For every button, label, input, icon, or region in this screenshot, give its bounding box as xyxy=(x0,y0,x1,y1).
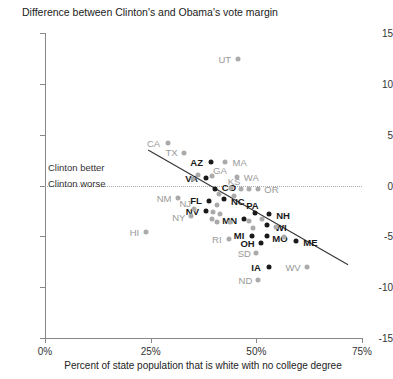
data-point xyxy=(215,202,220,207)
y-tick xyxy=(40,135,45,136)
point-label-fl: FL xyxy=(190,194,202,205)
point-label-pa: PA xyxy=(246,199,259,210)
plot-area xyxy=(0,0,393,379)
data-point xyxy=(190,177,195,182)
y-tick-label: -5 xyxy=(359,231,393,242)
point-label-ut: UT xyxy=(218,54,231,65)
data-point xyxy=(260,217,265,222)
data-point-ia xyxy=(267,264,272,269)
data-point-oh xyxy=(258,241,263,246)
x-tick xyxy=(256,338,257,343)
data-point-co xyxy=(212,186,217,191)
data-point xyxy=(281,235,286,240)
data-point-tx xyxy=(182,150,187,155)
data-point-me xyxy=(294,239,299,244)
data-point-ri xyxy=(226,237,231,242)
data-point-nh xyxy=(267,211,272,216)
y-tick-label: 0 xyxy=(359,180,393,191)
x-tick-label: 75% xyxy=(352,346,372,357)
x-tick-label: 0% xyxy=(38,346,52,357)
data-point-va xyxy=(203,176,208,181)
data-point xyxy=(211,209,216,214)
point-label-sd: SD xyxy=(238,247,251,258)
data-point xyxy=(218,211,223,216)
y-tick-label: -15 xyxy=(359,333,393,344)
data-point xyxy=(247,219,252,224)
x-axis-line xyxy=(45,338,362,339)
point-label-wa: WA xyxy=(244,172,259,183)
x-tick-label: 50% xyxy=(246,346,266,357)
point-label-ga: GA xyxy=(213,165,227,176)
point-label-ca: CA xyxy=(147,137,160,148)
x-tick xyxy=(151,338,152,343)
y-tick-label: 15 xyxy=(359,28,393,39)
data-point-ut xyxy=(235,57,240,62)
x-tick-label: 25% xyxy=(141,346,161,357)
point-label-me: ME xyxy=(303,237,317,248)
point-label-ny: NY xyxy=(172,212,185,223)
data-point-hi xyxy=(144,230,149,235)
y-tick xyxy=(40,33,45,34)
y-tick-label: -10 xyxy=(359,282,393,293)
data-point xyxy=(239,186,244,191)
data-point-mo xyxy=(264,234,269,239)
data-point-nd xyxy=(256,278,261,283)
data-point-mn xyxy=(241,217,246,222)
point-label-ia: IA xyxy=(251,261,261,272)
data-point xyxy=(217,191,222,196)
data-point-ny xyxy=(188,214,193,219)
x-tick xyxy=(362,338,363,343)
point-label-az: AZ xyxy=(190,157,203,168)
point-label-tx: TX xyxy=(165,146,177,157)
point-label-nj: NJ xyxy=(179,197,191,208)
point-label-ma: MA xyxy=(233,157,247,168)
y-tick-label: 10 xyxy=(359,78,393,89)
data-point xyxy=(214,220,219,225)
data-point-wv xyxy=(305,264,310,269)
data-point-nc xyxy=(221,196,226,201)
data-point-nv xyxy=(204,208,209,213)
data-point-fl xyxy=(206,198,211,203)
data-point-wi xyxy=(264,223,269,228)
data-point xyxy=(250,226,255,231)
data-point-sd xyxy=(254,250,259,255)
data-point xyxy=(228,220,233,225)
y-tick xyxy=(40,287,45,288)
x-axis-label: Percent of state population that is whit… xyxy=(64,360,341,371)
data-point-or xyxy=(256,186,261,191)
y-tick xyxy=(40,236,45,237)
data-point-pa xyxy=(253,210,258,215)
data-point xyxy=(247,186,252,191)
point-label-nm: NM xyxy=(157,192,172,203)
data-point xyxy=(231,193,236,198)
y-tick xyxy=(40,84,45,85)
point-label-hi: HI xyxy=(130,227,140,238)
point-label-nh: NH xyxy=(276,209,290,220)
data-point-ca xyxy=(165,140,170,145)
y-tick-label: 5 xyxy=(359,129,393,140)
annotation-clinton-better: Clinton better xyxy=(48,162,105,173)
point-label-ri: RI xyxy=(212,234,222,245)
annotation-clinton-worse: Clinton worse xyxy=(48,178,106,189)
data-point xyxy=(273,225,278,230)
point-label-or: OR xyxy=(264,183,278,194)
data-point xyxy=(196,173,201,178)
point-label-nd: ND xyxy=(239,275,253,286)
data-point-nj xyxy=(192,206,197,211)
point-label-wv: WV xyxy=(285,261,300,272)
point-label-ks: KS xyxy=(228,175,241,186)
x-tick xyxy=(45,338,46,343)
scatter-chart: Difference between Clinton's and Obama's… xyxy=(0,0,393,379)
